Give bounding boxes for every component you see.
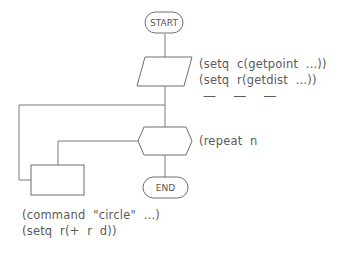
loop-annotation: (repeat n xyxy=(199,133,258,149)
input-annotation-continuation: — — — xyxy=(203,88,280,104)
connector-loop-back xyxy=(19,105,165,180)
input-node-parallelogram xyxy=(137,57,192,86)
start-label: START xyxy=(150,18,178,28)
end-node: END xyxy=(143,177,188,198)
start-node: START xyxy=(145,12,183,33)
process-annotation-line-1: (command "circle" ...) xyxy=(22,207,160,223)
process-node-rectangle xyxy=(31,165,84,195)
input-annotation-line-1: (setq c(getpoint ...)) xyxy=(199,56,327,72)
end-label: END xyxy=(156,183,175,193)
process-annotation-line-2: (setq r(+ r d)) xyxy=(22,223,117,239)
loop-node-hexagon xyxy=(138,127,192,155)
connector-loop-to-process xyxy=(58,141,138,165)
input-annotation-line-2: (setq r(getdist ...)) xyxy=(199,72,317,88)
